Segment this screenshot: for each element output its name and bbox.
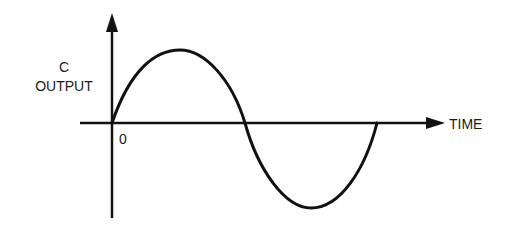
diagram-canvas xyxy=(0,0,517,228)
y-axis-label-line1: C xyxy=(24,58,104,77)
y-axis-label-line2: OUTPUT xyxy=(24,77,104,96)
x-axis-label: TIME xyxy=(449,117,482,131)
x-axis-arrow-icon xyxy=(426,117,445,129)
y-axis-arrow-icon xyxy=(106,13,118,32)
y-axis-label: C OUTPUT xyxy=(24,58,104,96)
origin-label: 0 xyxy=(119,132,127,146)
sine-wave-curve xyxy=(112,50,377,208)
